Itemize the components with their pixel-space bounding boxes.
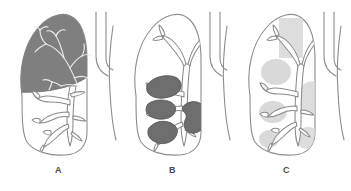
contralateral-lung-edge-c bbox=[337, 26, 344, 140]
lung-illustration-figure: A bbox=[0, 0, 351, 191]
panel-b-label: B bbox=[114, 165, 231, 176]
panel-c-label: C bbox=[228, 165, 345, 176]
panel-c-diagram bbox=[228, 0, 345, 170]
panel-a: A bbox=[0, 0, 117, 191]
mediastinum-group-c bbox=[324, 12, 344, 140]
panel-a-diagram bbox=[0, 0, 117, 170]
panel-a-label: A bbox=[0, 165, 117, 176]
panel-b: B bbox=[114, 0, 231, 191]
upper-lobe-fill-a bbox=[14, 8, 102, 92]
panel-b-diagram bbox=[114, 0, 231, 170]
mediastinum-group-b bbox=[210, 12, 230, 140]
mass-hilar-kidney-shaped-b bbox=[182, 102, 207, 134]
panel-c: C bbox=[228, 0, 345, 191]
mass-middle-b bbox=[146, 100, 176, 119]
mediastinum-group-a bbox=[96, 12, 116, 140]
mass-lower-b bbox=[148, 121, 178, 143]
upper-patch-opacity-c bbox=[261, 59, 291, 85]
upper-lobe-shading-a bbox=[14, 8, 102, 92]
